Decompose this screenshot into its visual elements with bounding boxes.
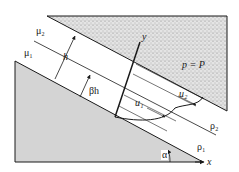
pressure-label: p = P [182, 60, 205, 70]
u2-label: u₂ [179, 89, 187, 99]
rho1-label: ρ₁ [197, 142, 205, 152]
rho2-label: ρ₂ [210, 121, 218, 131]
y-axis-label: y [142, 32, 146, 42]
u1-label: u₁ [135, 98, 143, 108]
beta-h-label: βh [89, 86, 99, 96]
h-label: h [63, 52, 68, 62]
x-axis-label: x [207, 157, 211, 167]
mu1-label: μ₁ [24, 48, 33, 58]
velocity-profile-u1 [115, 108, 175, 120]
mu2-label: μ₂ [36, 26, 45, 36]
u1-arrow [147, 108, 165, 117]
alpha-label: α [161, 150, 168, 160]
